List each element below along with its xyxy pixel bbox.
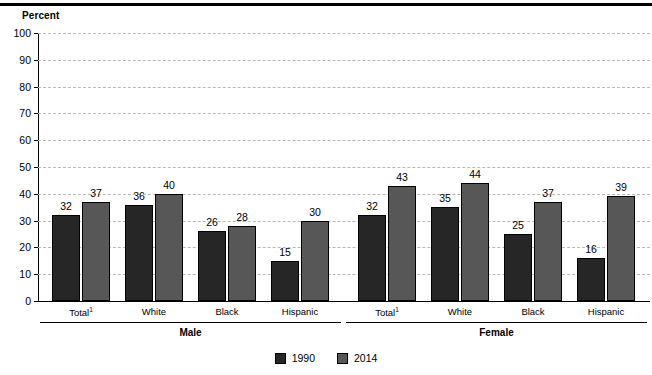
gridline <box>38 194 650 195</box>
chart-legend: 19902014 <box>0 352 652 364</box>
bar <box>198 231 226 301</box>
bar-value-label: 32 <box>60 200 72 212</box>
bar <box>52 215 80 301</box>
bar-value-label: 37 <box>90 187 102 199</box>
y-tick-label: 60 <box>19 134 31 146</box>
y-axis-title: Percent <box>22 10 59 21</box>
footnote-marker: 1 <box>395 306 399 313</box>
bar <box>82 202 110 301</box>
x-category-label: Black <box>215 306 238 317</box>
bar <box>607 196 635 301</box>
y-tick-mark <box>34 113 38 114</box>
group-rule <box>346 322 647 323</box>
bar <box>358 215 386 301</box>
bar-value-label: 35 <box>439 192 451 204</box>
y-tick-label: 30 <box>19 215 31 227</box>
bar <box>155 194 183 301</box>
y-tick-label: 20 <box>19 241 31 253</box>
legend-swatch <box>337 353 348 364</box>
bar-value-label: 25 <box>512 219 524 231</box>
y-tick-label: 80 <box>19 81 31 93</box>
gridline <box>38 167 650 168</box>
bar-value-label: 28 <box>236 211 248 223</box>
x-category-label: Total1 <box>69 306 93 318</box>
gridline <box>38 60 650 61</box>
bar-value-label: 37 <box>542 187 554 199</box>
bar-value-label: 43 <box>396 171 408 183</box>
gridline <box>38 33 650 34</box>
bar-value-label: 36 <box>133 190 145 202</box>
bar <box>431 207 459 301</box>
gridline <box>38 113 650 114</box>
y-tick-mark <box>34 167 38 168</box>
top-rule <box>0 3 652 6</box>
y-tick-label: 70 <box>19 107 31 119</box>
plot-area: 0102030405060708090100 32373640262815303… <box>38 33 650 301</box>
x-category-label: Hispanic <box>588 306 624 317</box>
y-tick-label: 50 <box>19 161 31 173</box>
x-category-label: Total1 <box>375 306 399 318</box>
legend-item: 1990 <box>275 352 315 364</box>
y-tick-mark <box>34 247 38 248</box>
y-tick-mark <box>34 33 38 34</box>
legend-label: 2014 <box>354 352 377 364</box>
legend-swatch <box>275 353 286 364</box>
x-category-label: White <box>448 306 472 317</box>
legend-label: 1990 <box>292 352 315 364</box>
bar <box>534 202 562 301</box>
y-tick-mark <box>34 301 38 302</box>
y-tick-label: 90 <box>19 54 31 66</box>
y-tick-mark <box>34 221 38 222</box>
gridline <box>38 87 650 88</box>
group-label: Female <box>479 327 513 338</box>
y-tick-label: 40 <box>19 188 31 200</box>
bar-value-label: 39 <box>615 181 627 193</box>
x-category-label: Hispanic <box>282 306 318 317</box>
footnote-marker: 1 <box>89 306 93 313</box>
bar <box>125 205 153 301</box>
bar-value-label: 30 <box>309 206 321 218</box>
group-label: Male <box>179 327 201 338</box>
bar <box>504 234 532 301</box>
y-tick-label: 0 <box>25 295 31 307</box>
bar <box>228 226 256 301</box>
y-tick-mark <box>34 140 38 141</box>
y-tick-label: 10 <box>19 268 31 280</box>
chart-figure: Percent 0102030405060708090100 323736402… <box>0 0 652 375</box>
bar-value-label: 26 <box>206 216 218 228</box>
y-tick-mark <box>34 87 38 88</box>
bar <box>388 186 416 301</box>
x-axis-baseline <box>38 301 650 302</box>
x-category-label: White <box>142 306 166 317</box>
bar-value-label: 44 <box>469 168 481 180</box>
bar-value-label: 32 <box>366 200 378 212</box>
gridline <box>38 140 650 141</box>
bar <box>461 183 489 301</box>
bar-value-label: 40 <box>163 179 175 191</box>
y-tick-mark <box>34 60 38 61</box>
x-category-label: Black <box>521 306 544 317</box>
legend-item: 2014 <box>337 352 377 364</box>
bar <box>577 258 605 301</box>
y-tick-mark <box>34 194 38 195</box>
y-tick-label: 100 <box>13 27 31 39</box>
group-rule <box>40 322 341 323</box>
bar <box>301 221 329 301</box>
y-tick-mark <box>34 274 38 275</box>
bar-value-label: 15 <box>279 246 291 258</box>
bar <box>271 261 299 301</box>
bar-value-label: 16 <box>585 243 597 255</box>
